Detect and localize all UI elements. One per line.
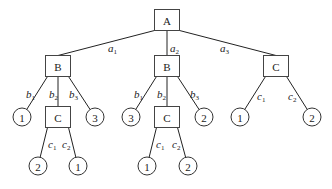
edge-label: c2 [288, 90, 297, 104]
outcome-node-L3: 3 [86, 108, 104, 126]
decision-node-B1: B [46, 56, 71, 77]
decision-node-C1: C [46, 107, 71, 128]
edge-label: b2 [157, 88, 167, 102]
decision-node-B2: B [155, 56, 180, 77]
node-label: 1 [144, 161, 150, 173]
outcome-node-L10: 1 [69, 157, 87, 175]
game-tree-diagram: ABBC1C33C2122112 a1a2a3b1b2b3b1b2b3c1c2c… [0, 0, 332, 189]
outcome-node-L8: 2 [303, 108, 321, 126]
outcome-node-L1: 1 [13, 108, 31, 126]
edge-label: c2 [62, 138, 71, 152]
node-label: 2 [35, 161, 41, 173]
node-label: B [163, 61, 170, 73]
edge-C3-L7 [245, 77, 266, 110]
edge-label: b3 [190, 88, 200, 102]
edge-B2-L6 [178, 77, 200, 110]
node-label: C [272, 61, 279, 73]
edge-label: a1 [108, 42, 118, 56]
edge-label: c1 [156, 138, 165, 152]
node-label: C [54, 112, 61, 124]
node-label: 2 [185, 161, 191, 173]
node-label: 2 [309, 112, 315, 124]
edge-label: a3 [220, 42, 230, 56]
node-label: A [163, 15, 171, 27]
decision-node-C2: C [155, 107, 180, 128]
edge-A-B1 [58, 31, 155, 56]
outcome-node-L12: 2 [179, 157, 197, 175]
outcome-node-L6: 2 [195, 108, 213, 126]
node-label: 1 [75, 161, 81, 173]
node-label: C [163, 112, 170, 124]
decision-node-A: A [155, 10, 180, 31]
node-label: 2 [201, 112, 207, 124]
node-label: 3 [128, 112, 134, 124]
edge-C2-L12 [178, 128, 186, 158]
edge-C1-L10 [69, 128, 76, 158]
edge-label: b1 [26, 88, 36, 102]
edge-label: c1 [257, 90, 266, 104]
node-label: 1 [19, 112, 25, 124]
node-label: 3 [92, 112, 98, 124]
decision-node-C3: C [264, 56, 289, 77]
edge-C1-L9 [40, 128, 47, 158]
edge-label: c2 [172, 138, 181, 152]
outcome-node-L11: 1 [138, 157, 156, 175]
outcome-node-L4: 3 [122, 108, 140, 126]
edge-label: b2 [49, 88, 59, 102]
edge-label: a2 [170, 42, 180, 56]
node-label: 1 [237, 112, 243, 124]
node-label: B [54, 61, 61, 73]
edge-label: c1 [48, 138, 57, 152]
outcome-node-L7: 1 [231, 108, 249, 126]
edge-label: b1 [134, 88, 144, 102]
outcome-node-L9: 2 [29, 157, 47, 175]
